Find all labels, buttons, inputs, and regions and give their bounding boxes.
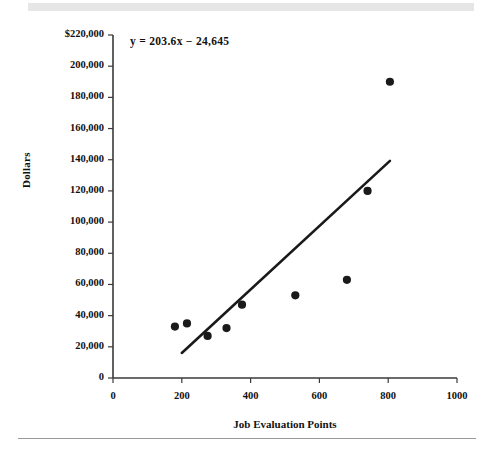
x-axis-tick-label: 0	[83, 390, 143, 401]
y-axis-tick-label: 80,000	[40, 246, 104, 257]
data-point	[204, 332, 212, 340]
y-axis-tick-label: 160,000	[40, 122, 104, 133]
regression-equation-annotation: y = 203.6x − 24,645	[130, 35, 229, 47]
data-point	[183, 319, 191, 327]
x-axis-tick-label: 800	[358, 390, 418, 401]
y-axis-tick-label: 120,000	[40, 184, 104, 195]
data-point	[363, 187, 371, 195]
data-point	[291, 291, 299, 299]
x-axis-label: Job Evaluation Points	[113, 418, 457, 430]
x-axis-tick-label: 1000	[427, 390, 487, 401]
data-point	[171, 322, 179, 330]
y-axis-tick-label: 60,000	[40, 277, 104, 288]
y-axis-tick-label: 140,000	[40, 153, 104, 164]
x-axis-tick-label: 400	[221, 390, 281, 401]
data-point	[222, 324, 230, 332]
y-axis-tick-label: 20,000	[40, 340, 104, 351]
y-axis-tick-label: 200,000	[40, 59, 104, 70]
x-axis-tick-label: 600	[289, 390, 349, 401]
data-point	[386, 78, 394, 86]
x-axis-tick-label: 200	[152, 390, 212, 401]
regression-line	[182, 161, 390, 353]
y-axis-label: Dollars	[20, 164, 32, 188]
data-point	[343, 276, 351, 284]
figure-container: Dollars Job Evaluation Points y = 203.6x…	[0, 0, 494, 457]
y-axis-tick-label: 40,000	[40, 309, 104, 320]
y-axis-tick-label: 0	[40, 371, 104, 382]
y-axis-tick-label: 100,000	[40, 215, 104, 226]
y-axis-tick-label: $220,000	[40, 28, 104, 39]
y-axis-tick-label: 180,000	[40, 90, 104, 101]
data-point	[238, 301, 246, 309]
